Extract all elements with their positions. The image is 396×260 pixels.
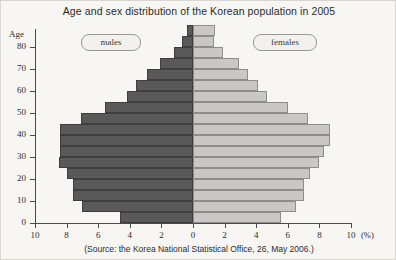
legend-males: males <box>81 34 141 51</box>
x-axis-tick-label: 8 <box>307 230 331 240</box>
y-axis-tick <box>30 69 35 70</box>
bar-male <box>73 190 193 201</box>
y-axis-tick-label: 20 <box>4 173 26 183</box>
bar-male <box>59 157 193 168</box>
x-axis-tick-label: 2 <box>213 230 237 240</box>
bar-female <box>193 212 281 223</box>
y-axis-tick-label: 60 <box>4 85 26 95</box>
bar-male <box>81 113 193 124</box>
x-axis-tick <box>288 223 289 228</box>
bar-male <box>60 135 193 146</box>
y-axis-tick-label: 50 <box>4 107 26 117</box>
bar-female <box>193 102 288 113</box>
y-axis-tick <box>30 157 35 158</box>
bar-male <box>120 212 193 223</box>
bar-male <box>60 124 193 135</box>
y-axis-tick-label: 30 <box>4 151 26 161</box>
x-axis-tick-label: 4 <box>118 230 142 240</box>
bar-male <box>127 91 193 102</box>
bar-female <box>193 80 258 91</box>
bar-female <box>193 146 324 157</box>
bar-female <box>193 168 310 179</box>
y-axis-tick <box>30 91 35 92</box>
source-note: (Source: the Korea National Statistical … <box>1 244 396 254</box>
bar-male <box>147 69 193 80</box>
bar-male <box>136 80 193 91</box>
y-axis-tick <box>30 179 35 180</box>
y-axis-tick <box>30 113 35 114</box>
legend-females: females <box>253 34 317 51</box>
bar-female <box>193 36 214 47</box>
y-axis-tick-label: 0 <box>4 217 26 227</box>
x-axis-tick <box>130 223 131 228</box>
y-axis-tick-label: 70 <box>4 63 26 73</box>
bar-male <box>174 47 193 58</box>
bar-female <box>193 113 308 124</box>
bar-female <box>193 190 304 201</box>
x-axis-tick <box>225 223 226 228</box>
y-axis-tick <box>30 135 35 136</box>
bar-female <box>193 179 304 190</box>
bar-female <box>193 124 330 135</box>
y-axis-tick-label: 10 <box>4 195 26 205</box>
page-title: Age and sex distribution of the Korean p… <box>1 5 396 17</box>
bar-male <box>160 58 193 69</box>
bar-female <box>193 58 239 69</box>
x-axis-tick-label: 10 <box>339 230 363 240</box>
bar-female <box>193 47 223 58</box>
y-axis-title: Age <box>9 29 24 39</box>
bar-male <box>67 168 193 179</box>
x-axis-tick-label: 10 <box>23 230 47 240</box>
bar-female <box>193 201 296 212</box>
x-axis-tick <box>98 223 99 228</box>
bar-male <box>60 146 193 157</box>
x-axis-tick-label: 8 <box>55 230 79 240</box>
x-axis-tick <box>256 223 257 228</box>
chart-page: Age and sex distribution of the Korean p… <box>0 0 396 260</box>
x-axis-tick-label: 0 <box>181 230 205 240</box>
bar-female <box>193 157 319 168</box>
x-axis-tick-label: 6 <box>276 230 300 240</box>
y-axis-tick-label: 40 <box>4 129 26 139</box>
y-axis-tick <box>30 47 35 48</box>
x-axis-unit-label: (%) <box>361 230 374 240</box>
bar-male <box>73 179 193 190</box>
x-axis-tick <box>35 223 36 228</box>
bar-female <box>193 69 248 80</box>
x-axis-tick-label: 2 <box>149 230 173 240</box>
y-axis-tick <box>30 201 35 202</box>
bar-female <box>193 25 215 36</box>
y-axis-line <box>35 29 36 223</box>
y-axis-tick-label: 80 <box>4 41 26 51</box>
bar-male <box>82 201 193 212</box>
x-axis-tick-label: 6 <box>86 230 110 240</box>
x-axis-tick <box>67 223 68 228</box>
bar-female <box>193 135 330 146</box>
bar-male <box>182 36 193 47</box>
x-axis-tick-label: 4 <box>244 230 268 240</box>
x-axis-tick <box>351 223 352 228</box>
x-axis-tick <box>319 223 320 228</box>
x-axis-tick <box>161 223 162 228</box>
x-axis-tick <box>193 223 194 228</box>
bar-female <box>193 91 267 102</box>
bar-male <box>105 102 193 113</box>
